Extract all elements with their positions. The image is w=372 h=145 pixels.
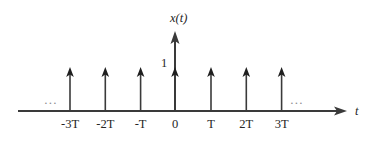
impulse-plus-t	[207, 67, 215, 111]
tick-label-minus-t: -T	[135, 118, 147, 131]
signal-name-label: x(t)	[170, 12, 187, 25]
tick-label-minus-2t: -2T	[96, 118, 114, 131]
impulse-minus-t	[137, 67, 145, 111]
impulse-plus-3t	[278, 67, 286, 111]
impulse-minus-3t	[66, 67, 74, 111]
ellipsis-right: ...	[290, 93, 303, 106]
impulse-zero	[171, 67, 179, 111]
impulse-train-figure: x(t) 1 t ... ... -3T -2T -T 0 T 2T 3T	[0, 0, 372, 145]
impulse-plus-2t	[243, 67, 251, 111]
tick-label-minus-3t: -3T	[61, 118, 79, 131]
x-axis-variable-label: t	[355, 105, 358, 118]
amplitude-label: 1	[161, 57, 167, 70]
impulse-minus-2t	[102, 67, 110, 111]
tick-label-plus-t: T	[207, 118, 215, 131]
tick-label-zero: 0	[172, 118, 178, 131]
tick-label-plus-2t: 2T	[239, 118, 253, 131]
ellipsis-left: ...	[44, 93, 57, 106]
tick-label-plus-3t: 3T	[275, 118, 289, 131]
